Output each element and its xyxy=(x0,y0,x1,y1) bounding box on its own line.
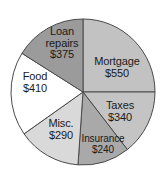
pie-chart-canvas xyxy=(0,0,165,179)
pie-chart-budget: Mortgage $550 Taxes $340 Insurance $240 … xyxy=(0,0,165,179)
pie-slices-group xyxy=(11,19,155,165)
pie-slice-mortgage xyxy=(83,19,155,92)
